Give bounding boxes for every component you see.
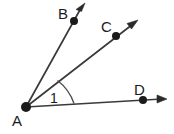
- point-dot-b: [70, 17, 78, 25]
- label-d: D: [134, 81, 145, 98]
- label-a: A: [12, 112, 22, 129]
- label-b: B: [58, 5, 68, 22]
- ray-ad-arrowhead: [157, 95, 167, 103]
- label-angle-1: 1: [50, 90, 58, 106]
- vertex-dot-a: [21, 102, 31, 112]
- diagram-canvas: A B C D 1: [0, 0, 174, 134]
- angle-diagram: A B C D 1: [0, 0, 174, 134]
- ray-ab-arrowhead: [76, 3, 85, 12]
- point-dot-c: [112, 32, 120, 40]
- angle-1-arc: [58, 81, 75, 104]
- label-c: C: [101, 18, 112, 35]
